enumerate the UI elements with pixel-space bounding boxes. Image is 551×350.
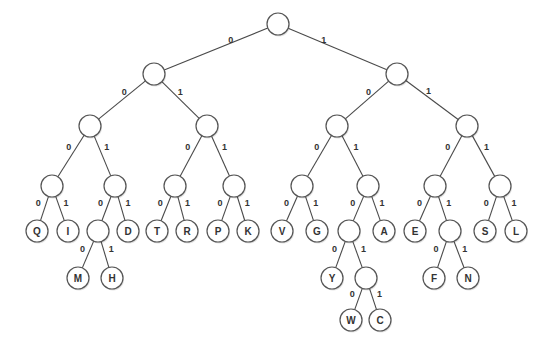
edge-n1101-F — [438, 241, 447, 267]
leaf-node-R: R — [176, 220, 199, 244]
bit-label: 1 — [446, 198, 451, 208]
edge-n10-n100 — [308, 136, 332, 177]
node-label: I — [67, 226, 70, 237]
node-circle — [386, 63, 408, 85]
edge-n11-n110 — [440, 136, 462, 177]
node-circle — [143, 63, 165, 85]
bit-label: 1 — [109, 244, 114, 254]
node-circle — [41, 175, 63, 197]
node-label: V — [279, 226, 286, 237]
bit-label: 0 — [366, 87, 371, 97]
internal-node — [223, 175, 246, 199]
bit-label: 0 — [350, 289, 355, 299]
edge-n000-Q — [40, 196, 48, 220]
bit-label: 1 — [361, 244, 366, 254]
edge-n_root-n0 — [164, 28, 268, 70]
leaf-node-V: V — [271, 220, 294, 244]
node-label: C — [376, 315, 383, 326]
bit-label: 1 — [222, 142, 227, 152]
node-label: Q — [33, 226, 41, 237]
leaf-node-E: E — [404, 220, 427, 244]
node-circle — [326, 115, 348, 137]
bit-label: 1 — [64, 198, 69, 208]
leaf-node-S: S — [474, 220, 497, 244]
bit-label: 0 — [185, 142, 190, 152]
node-label: T — [154, 226, 160, 237]
internal-node — [196, 115, 219, 139]
bit-label: 0 — [228, 35, 233, 45]
node-circle — [267, 13, 289, 35]
node-circle — [439, 220, 461, 242]
edge-n01-n010 — [180, 136, 202, 177]
leaf-node-D: D — [117, 220, 140, 244]
internal-node — [386, 63, 409, 87]
leaf-node-Y: Y — [321, 267, 344, 291]
bit-label: 1 — [185, 198, 190, 208]
bit-label: 1 — [426, 86, 431, 96]
leaf-node-F: F — [423, 267, 446, 291]
edge-n0010-H — [101, 242, 109, 268]
internal-node — [355, 267, 378, 291]
leaf-node-C: C — [369, 309, 392, 333]
node-circle — [489, 175, 511, 197]
internal-node — [338, 220, 361, 244]
bit-label: 0 — [66, 142, 71, 152]
edge-n1-n11 — [406, 81, 458, 120]
node-circle — [104, 175, 126, 197]
edge-n001-D — [118, 197, 125, 221]
node-label: F — [431, 273, 437, 284]
leaf-node-A: A — [373, 220, 396, 244]
leaf-node-M: M — [67, 267, 90, 291]
leaf-node-T: T — [146, 220, 169, 244]
bit-label: 0 — [332, 244, 337, 254]
leaf-node-G: G — [306, 220, 329, 244]
node-circle — [79, 115, 101, 137]
bit-label: 1 — [321, 35, 326, 45]
node-label: G — [313, 226, 321, 237]
leaf-node-I: I — [57, 220, 80, 244]
internal-node — [489, 175, 512, 199]
node-circle — [456, 115, 478, 137]
node-circle — [291, 175, 313, 197]
node-label: S — [482, 226, 489, 237]
node-label: L — [513, 226, 519, 237]
bit-label: 1 — [104, 142, 109, 152]
bit-label: 0 — [98, 198, 103, 208]
edge-n10101-C — [369, 288, 376, 309]
node-circle — [223, 175, 245, 197]
edge-n011-P — [222, 196, 231, 220]
leaf-node-K: K — [237, 220, 260, 244]
leaf-node-P: P — [207, 220, 230, 244]
edge-n001-n0010 — [102, 196, 111, 220]
node-label: N — [464, 273, 471, 284]
bit-label: 0 — [36, 198, 41, 208]
node-circle — [87, 220, 109, 242]
bit-label: 0 — [417, 198, 422, 208]
code-tree-diagram: 01010101010101010101010101010101010101 Q… — [0, 0, 551, 350]
tree-svg: 01010101010101010101010101010101010101 Q… — [0, 0, 551, 350]
node-label: D — [124, 226, 131, 237]
node-label: P — [215, 226, 222, 237]
bit-label: 1 — [313, 198, 318, 208]
leaf-node-W: W — [340, 309, 363, 333]
internal-node — [424, 175, 447, 199]
bit-label: 0 — [284, 198, 289, 208]
node-circle — [355, 267, 377, 289]
bit-label: 0 — [433, 244, 438, 254]
leaf-node-N: N — [457, 267, 480, 291]
internal-node — [104, 175, 127, 199]
edge-n1010-Y — [336, 241, 346, 267]
node-label: Y — [329, 273, 336, 284]
internal-node — [87, 220, 110, 244]
internal-node — [357, 175, 380, 199]
bit-label: 1 — [484, 142, 489, 152]
edge-n_root-n1 — [288, 28, 387, 69]
edge-n111-S — [488, 196, 496, 220]
node-label: E — [412, 226, 419, 237]
node-circle — [164, 175, 186, 197]
internal-node — [267, 13, 290, 37]
bit-label: 0 — [158, 198, 163, 208]
internal-node — [326, 115, 349, 139]
internal-node — [143, 63, 166, 87]
bit-label: 1 — [125, 198, 130, 208]
